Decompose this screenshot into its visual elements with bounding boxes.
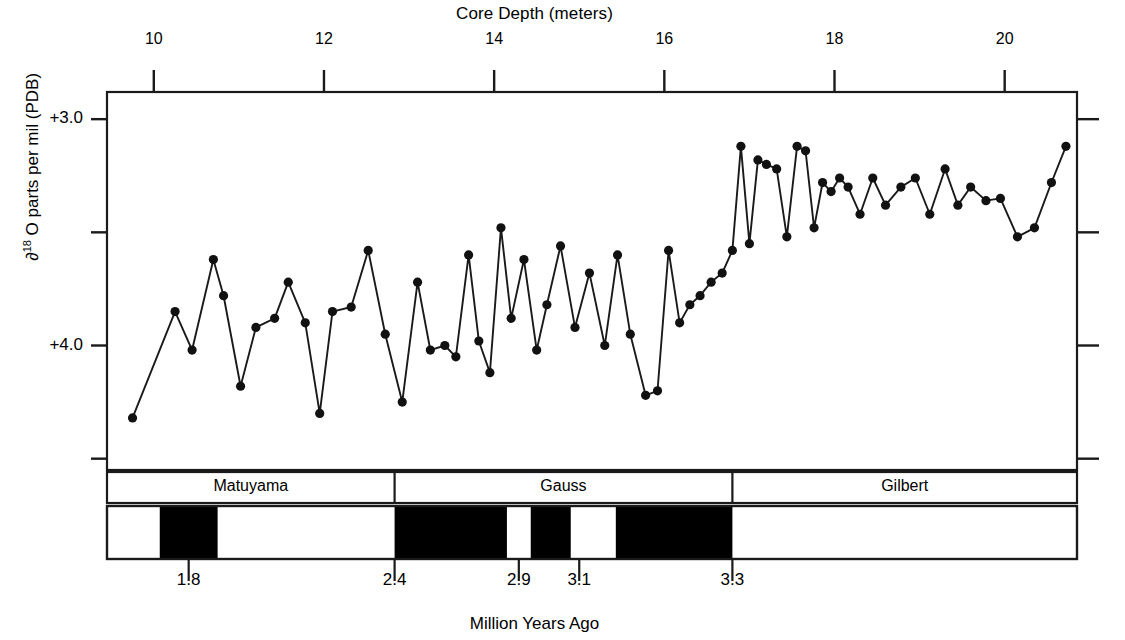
data-point-32 [613,250,622,259]
data-point-42 [728,246,737,255]
top-tick-label-14: 14 [464,30,524,48]
data-line [133,146,1066,418]
epoch-label-gilbert: Gilbert [795,477,1015,495]
data-point-63 [953,201,962,210]
epoch-label-gauss: Gauss [453,477,673,495]
data-point-6 [251,323,260,332]
data-point-26 [532,345,541,354]
data-point-2 [187,345,196,354]
polarity-reversed-2 [395,506,507,559]
data-point-37 [675,318,684,327]
age-tick-label-2.9: 2.9 [489,570,549,590]
plot-canvas [0,0,1125,640]
data-point-10 [315,409,324,418]
data-point-16 [413,278,422,287]
data-point-69 [1047,178,1056,187]
data-point-61 [925,210,934,219]
data-point-59 [896,182,905,191]
data-point-3 [209,255,218,264]
data-point-29 [570,323,579,332]
data-point-14 [381,330,390,339]
data-point-17 [426,345,435,354]
data-point-31 [600,341,609,350]
data-point-36 [664,246,673,255]
data-point-22 [485,368,494,377]
data-point-65 [981,196,990,205]
data-point-18 [440,341,449,350]
data-point-33 [626,330,635,339]
data-point-41 [718,268,727,277]
data-point-28 [556,241,565,250]
data-point-8 [284,278,293,287]
data-point-4 [219,291,228,300]
data-point-35 [653,386,662,395]
data-point-12 [347,302,356,311]
data-point-54 [835,173,844,182]
data-point-39 [695,291,704,300]
data-point-5 [236,382,245,391]
data-point-55 [844,182,853,191]
data-point-45 [753,155,762,164]
data-point-68 [1030,223,1039,232]
data-point-23 [496,223,505,232]
data-point-47 [772,164,781,173]
polarity-reversed-1 [160,506,218,559]
data-point-51 [809,223,818,232]
top-tick-label-18: 18 [805,30,865,48]
data-point-38 [685,300,694,309]
data-point-48 [782,232,791,241]
isotope-chart-figure: Core Depth (meters) ∂18 O parts per mil … [0,0,1125,640]
age-tick-label-3.1: 3.1 [549,570,609,590]
data-point-13 [364,246,373,255]
data-point-43 [736,142,745,151]
age-tick-label-3.3: 3.3 [702,570,762,590]
data-point-27 [542,300,551,309]
top-tick-label-10: 10 [124,30,184,48]
data-point-1 [170,307,179,316]
data-point-56 [855,210,864,219]
data-point-25 [519,255,528,264]
data-point-67 [1013,232,1022,241]
data-point-49 [792,142,801,151]
data-point-24 [507,314,516,323]
data-point-53 [827,187,836,196]
data-point-40 [707,278,716,287]
data-point-7 [270,314,279,323]
data-point-62 [941,164,950,173]
data-point-66 [996,194,1005,203]
data-point-60 [911,173,920,182]
data-point-15 [398,398,407,407]
data-point-11 [328,307,337,316]
data-point-44 [745,239,754,248]
data-point-58 [881,201,890,210]
data-point-46 [762,160,771,169]
top-tick-label-12: 12 [294,30,354,48]
data-point-20 [464,250,473,259]
data-point-52 [818,178,827,187]
data-point-30 [585,268,594,277]
top-tick-label-16: 16 [634,30,694,48]
data-point-50 [801,146,810,155]
data-point-64 [966,182,975,191]
y-tick-label-+4.0: +4.0 [13,335,83,355]
data-point-57 [868,173,877,182]
polarity-band [107,506,1077,559]
y-tick-label-+3.0: +3.0 [13,108,83,128]
data-point-21 [474,336,483,345]
data-point-9 [301,318,310,327]
top-tick-label-20: 20 [975,30,1035,48]
age-tick-label-1.8: 1.8 [159,570,219,590]
age-tick-label-2.4: 2.4 [365,570,425,590]
data-point-70 [1061,142,1070,151]
polarity-reversed-4 [616,506,733,559]
epoch-label-matuyama: Matuyama [141,477,361,495]
data-point-34 [641,391,650,400]
data-point-19 [451,352,460,361]
polarity-reversed-3 [531,506,571,559]
data-point-0 [128,413,137,422]
